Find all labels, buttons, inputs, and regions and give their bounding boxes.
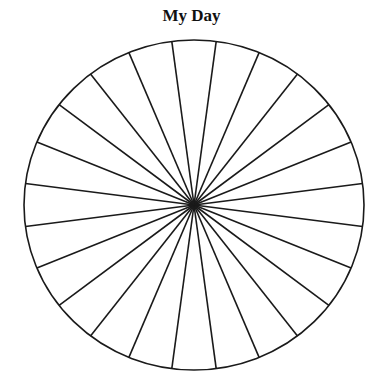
pie-chart <box>0 0 383 392</box>
